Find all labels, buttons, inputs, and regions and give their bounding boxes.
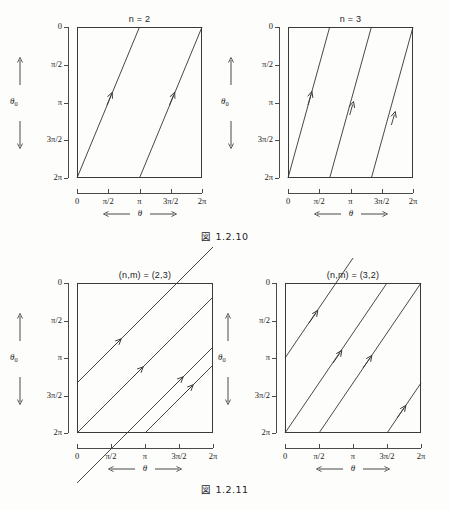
plot-n3-xlabel-4: 2π xyxy=(399,197,427,206)
plot-n2-ytick-0 xyxy=(64,27,68,28)
plot-nm23-xtick-0 xyxy=(77,444,78,448)
plot-nm23-yaxis-line xyxy=(68,283,69,433)
figure-page: n = 2 0 π/2 π 3π/2 2π xyxy=(0,0,450,510)
plot-n3-xlabel-2: π xyxy=(337,197,365,206)
plot-n2-xlabel-4: 2π xyxy=(188,197,216,206)
plot-n2-xtick-1 xyxy=(108,189,109,193)
plot-nm32-xlabel-1: π/2 xyxy=(305,452,333,461)
plot-n3-ytick-4 xyxy=(275,178,279,179)
plot-n3-xtick-1 xyxy=(319,189,320,193)
plot-n3-xtick-3 xyxy=(382,189,383,193)
plot-n3-trajectories xyxy=(288,27,413,178)
plot-nm32-ytick-3 xyxy=(272,396,276,397)
plot-nm32-xtick-2 xyxy=(353,444,354,448)
plot-nm32-xtick-3 xyxy=(387,444,388,448)
plot-n2-xtick-4 xyxy=(202,189,203,193)
plot-n2-xtick-3 xyxy=(171,189,172,193)
plot-n3-ylabel-1: π/2 xyxy=(235,60,273,69)
plot-nm32-trajectories xyxy=(285,283,421,433)
plot-n2-xtick-2 xyxy=(140,189,141,193)
plot-n2-ylabel-1: π/2 xyxy=(24,60,62,69)
plot-nm32-ylabel-3: 3π/2 xyxy=(232,391,270,400)
plot-n2-xlabel-0: 0 xyxy=(63,197,91,206)
plot-nm23-ytick-0 xyxy=(64,283,68,284)
plot-n2-ytick-3 xyxy=(64,140,68,141)
plot-nm32-ytick-1 xyxy=(272,321,276,322)
plot-n2-xaxis-name: θ xyxy=(126,208,154,218)
plot-nm32-xaxis-name: θ xyxy=(339,463,367,473)
figure-1-2-11-caption: 図 1.2.11 xyxy=(0,482,450,496)
plot-n2-yaxis-name: θ0 xyxy=(10,96,18,107)
plot-n3-xtick-4 xyxy=(413,189,414,193)
plot-nm32-ytick-4 xyxy=(272,433,276,434)
plot-n2-ytick-4 xyxy=(64,178,68,179)
plot-n3-ylabel-2: π xyxy=(235,98,273,107)
plot-nm32-ylabel-4: 2π xyxy=(232,428,270,437)
plot-n3-yaxis-line xyxy=(279,27,280,178)
plot-nm23-xlabel-3: 3π/2 xyxy=(165,452,193,461)
plot-nm23-xtick-3 xyxy=(179,444,180,448)
plot-n2-xlabel-3: 3π/2 xyxy=(157,197,185,206)
plot-nm23-xtick-2 xyxy=(145,444,146,448)
plot-n3-ytick-0 xyxy=(275,27,279,28)
plot-n3-ytick-2 xyxy=(275,103,279,104)
plot-nm32-ytick-0 xyxy=(272,283,276,284)
plot-n2-yaxis-line xyxy=(68,27,69,178)
plot-nm32-ytick-2 xyxy=(272,358,276,359)
plot-n3-ylabel-0: 0 xyxy=(235,22,273,31)
plot-n3-xaxis-name: θ xyxy=(337,208,365,218)
plot-nm32-ylabel-2: π xyxy=(232,353,270,362)
plot-nm23-xaxis-name: θ xyxy=(131,463,159,473)
plot-nm23-ytick-4 xyxy=(64,433,68,434)
plot-nm32-title: (n,m) = (3,2) xyxy=(285,270,421,280)
plot-nm23-ylabel-3: 3π/2 xyxy=(24,391,62,400)
plot-nm23-yaxis-name: θ0 xyxy=(10,352,18,363)
plot-nm32-ylabel-0: 0 xyxy=(232,278,270,287)
plot-nm23-ylabel-2: π xyxy=(24,353,62,362)
figure-1-2-11-caption-text: 図 1.2.11 xyxy=(201,484,248,495)
plot-nm23-title: (n,m) = (2,3) xyxy=(77,270,213,280)
plot-n2-ylabel-0: 0 xyxy=(24,22,62,31)
plot-nm32-xlabel-4: 2π xyxy=(407,452,435,461)
plot-nm23-ylabel-1: π/2 xyxy=(24,316,62,325)
plot-n3-xaxis-line xyxy=(288,193,413,194)
plot-n2-title: n = 2 xyxy=(77,14,202,24)
plot-n3-ytick-1 xyxy=(275,65,279,66)
plot-n2-ylabel-2: π xyxy=(24,98,62,107)
plot-nm32-xtick-0 xyxy=(285,444,286,448)
plot-n2-ytick-2 xyxy=(64,103,68,104)
plot-nm23-ytick-2 xyxy=(64,358,68,359)
plot-n2-xtick-0 xyxy=(77,189,78,193)
plot-nm32-yaxis-subscript: 0 xyxy=(222,356,225,363)
figure-1-2-10: n = 2 0 π/2 π 3π/2 2π xyxy=(0,0,450,250)
figure-1-2-10-caption: 図 1.2.10 xyxy=(0,229,450,243)
plot-n3-ytick-3 xyxy=(275,140,279,141)
plot-nm23-yaxis-subscript: 0 xyxy=(14,356,17,363)
plot-n2-xlabel-1: π/2 xyxy=(94,197,122,206)
plot-nm23-xlabel-4: 2π xyxy=(199,452,227,461)
plot-n2-trajectories xyxy=(77,27,202,178)
plot-nm23-trajectories xyxy=(77,283,213,433)
plot-n3-yaxis-name: θ0 xyxy=(221,96,229,107)
plot-n2-xaxis-line xyxy=(77,193,202,194)
plot-nm23-ylabel-0: 0 xyxy=(24,278,62,287)
plot-n3-xtick-0 xyxy=(288,189,289,193)
plot-n3-ylabel-4: 2π xyxy=(235,173,273,182)
plot-nm23-xlabel-1: π/2 xyxy=(97,452,125,461)
plot-n3-yaxis-subscript: 0 xyxy=(225,100,228,107)
plot-n3-xlabel-0: 0 xyxy=(274,197,302,206)
plot-n3-ylabel-3: 3π/2 xyxy=(235,135,273,144)
plot-nm23-xlabel-0: 0 xyxy=(63,452,91,461)
plot-nm23-xtick-1 xyxy=(111,444,112,448)
plot-n2-yaxis-subscript: 0 xyxy=(14,100,17,107)
plot-nm23-xtick-4 xyxy=(213,444,214,448)
plot-n2-ylabel-3: 3π/2 xyxy=(24,135,62,144)
plot-nm23-xaxis-line xyxy=(77,448,213,449)
plot-nm32-yaxis-line xyxy=(276,283,277,433)
plot-nm23-xlabel-2: π xyxy=(131,452,159,461)
plot-nm32-xaxis-line xyxy=(285,448,421,449)
plot-n3-title: n = 3 xyxy=(288,14,413,24)
plot-n2-xlabel-2: π xyxy=(126,197,154,206)
plot-n2-ytick-1 xyxy=(64,65,68,66)
plot-nm23-ytick-3 xyxy=(64,396,68,397)
